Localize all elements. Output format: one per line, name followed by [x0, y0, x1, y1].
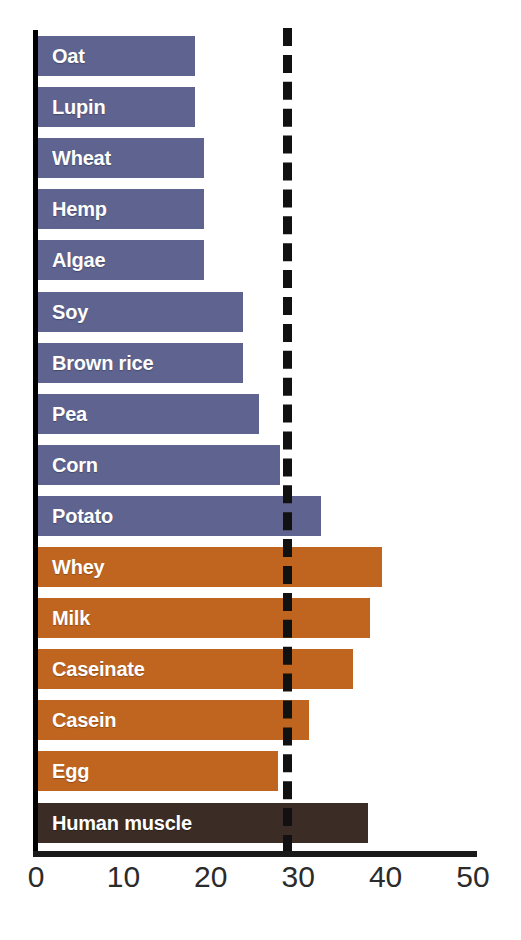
bar-row: Casein: [38, 700, 309, 740]
bar-label: Whey: [52, 556, 105, 579]
bar-row: Hemp: [38, 189, 204, 229]
bar-row: Potato: [38, 496, 321, 536]
bar-row: Caseinate: [38, 649, 353, 689]
bar-row: Whey: [38, 547, 382, 587]
bar-label: Milk: [52, 607, 90, 630]
x-tick-label: 0: [28, 860, 45, 894]
bar-row: Algae: [38, 240, 204, 280]
x-axis-tick-labels: 01020304050: [0, 860, 521, 906]
x-tick-label: 20: [194, 860, 227, 894]
bar-label: Casein: [52, 709, 116, 732]
x-tick-label: 40: [369, 860, 402, 894]
x-tick-label: 30: [282, 860, 315, 894]
bar-row: Milk: [38, 598, 370, 638]
bar-label: Brown rice: [52, 351, 153, 374]
value-axis-line: [33, 851, 477, 857]
bar-row: Pea: [38, 394, 259, 434]
bar-label: Wheat: [52, 147, 111, 170]
bar-row: Wheat: [38, 138, 204, 178]
bar-row: Corn: [38, 445, 280, 485]
bar-chart: OatLupinWheatHempAlgaeSoyBrown ricePeaCo…: [0, 0, 521, 940]
bar-label: Algae: [52, 249, 105, 272]
bar-label: Soy: [52, 300, 88, 323]
bar-row: Oat: [38, 36, 195, 76]
bar-label: Lupin: [52, 96, 105, 119]
bar-label: Pea: [52, 402, 87, 425]
reference-line-28: [283, 28, 292, 853]
bar-label: Oat: [52, 45, 85, 68]
bar-row: Egg: [38, 751, 278, 791]
x-tick-label: 50: [456, 860, 489, 894]
bar-label: Hemp: [52, 198, 107, 221]
bar-row: Brown rice: [38, 343, 243, 383]
x-tick-label: 10: [107, 860, 140, 894]
bar-label: Caseinate: [52, 658, 145, 681]
bar-label: Potato: [52, 504, 113, 527]
bar-row: Lupin: [38, 87, 195, 127]
bar-label: Egg: [52, 760, 89, 783]
bar-label: Human muscle: [52, 811, 192, 834]
bar-row: Human muscle: [38, 803, 368, 843]
plot-area: OatLupinWheatHempAlgaeSoyBrown ricePeaCo…: [0, 0, 521, 855]
bar-label: Corn: [52, 453, 98, 476]
bar-row: Soy: [38, 292, 243, 332]
